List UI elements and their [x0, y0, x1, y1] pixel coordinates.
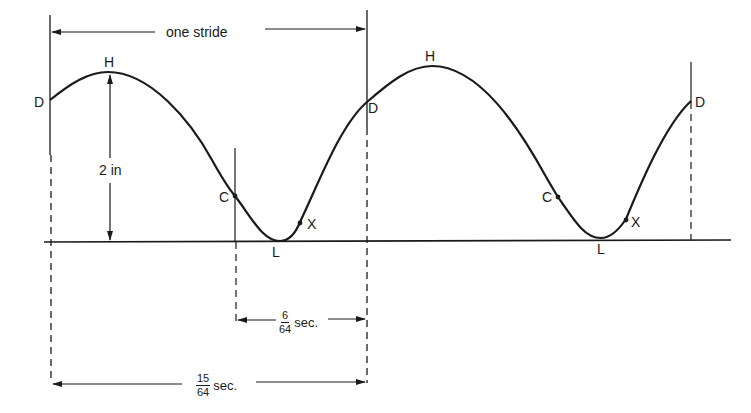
- point-x1-label: X: [307, 217, 316, 231]
- baseline: [44, 240, 731, 242]
- long-interval-denominator: 64: [197, 386, 209, 398]
- point-l2-label: L: [597, 242, 605, 256]
- short-interval-label: 6 64 sec.: [276, 310, 321, 335]
- short-interval-denominator: 64: [279, 323, 291, 335]
- point-x2-label: X: [631, 215, 640, 229]
- long-interval-unit: sec.: [213, 378, 237, 393]
- short-interval-numerator: 6: [281, 310, 289, 323]
- point-l1-label: L: [272, 245, 280, 259]
- gait-curve: [50, 66, 691, 241]
- point-d2-label: D: [368, 101, 378, 115]
- point-c2-dot: [556, 195, 561, 200]
- height-label: 2 in: [97, 163, 124, 177]
- stride-label: one stride: [158, 24, 235, 40]
- point-h1-label: H: [104, 55, 114, 69]
- point-x2-dot: [624, 218, 629, 223]
- point-c1-dot: [233, 194, 238, 199]
- point-c1-label: C: [219, 190, 229, 204]
- long-interval-label: 15 64 sec.: [193, 373, 240, 398]
- point-d1-label: D: [34, 95, 44, 109]
- short-interval-unit: sec.: [294, 315, 318, 330]
- point-x1-dot: [298, 221, 303, 226]
- point-c2-label: C: [542, 190, 552, 204]
- point-d3-label: D: [695, 95, 705, 109]
- long-interval-numerator: 15: [196, 373, 210, 386]
- point-h2-label: H: [425, 49, 435, 63]
